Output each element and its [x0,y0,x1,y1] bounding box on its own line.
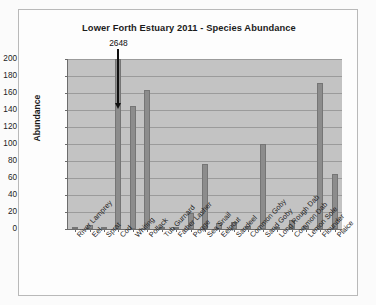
bar-slot [140,59,154,229]
chart-title: Lower Forth Estuary 2011 - Species Abund… [19,23,359,33]
bar-slot [68,59,82,229]
bar-slot [255,59,269,229]
y-axis-tick-label: 200 [0,54,17,63]
y-axis-tick-label: 120 [0,122,17,131]
bar-slot [126,59,140,229]
chart-card: Lower Forth Estuary 2011 - Species Abund… [18,9,358,296]
bar-slot [155,59,169,229]
bar-slot [82,59,96,229]
bar[interactable] [144,90,150,229]
y-axis-title: Abundance [32,70,42,166]
bar-slot [227,59,241,229]
bar[interactable] [115,59,121,229]
y-axis-tick-label: 180 [0,71,17,80]
y-axis-tick-label: 0 [0,224,17,233]
y-axis-tick-label: 160 [0,88,17,97]
y-axis-tick-mark [65,229,68,230]
bar-slot [328,59,342,229]
y-axis-tick-label: 80 [0,156,17,165]
y-axis-tick-label: 100 [0,139,17,148]
bar[interactable] [130,106,136,229]
y-axis-tick-label: 140 [0,105,17,114]
bar-slot [169,59,183,229]
y-axis-tick-label: 40 [0,190,17,199]
y-axis-tick-label: 20 [0,207,17,216]
figure-canvas: Lower Forth Estuary 2011 - Species Abund… [0,0,376,305]
annotation-value-label: 2648 [109,38,128,48]
y-axis-tick-label: 60 [0,173,17,182]
bar-slot [241,59,255,229]
bar-slot [212,59,226,229]
